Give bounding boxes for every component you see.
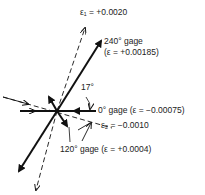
eps1-label: ε₁ = +0.0020 <box>80 7 127 17</box>
eps2-axis <box>3 97 112 141</box>
angle-label: 17° <box>81 82 94 92</box>
angle-17-indicator <box>86 97 90 109</box>
eps1-axis <box>36 28 85 190</box>
eps2-label: ε₂ = −0.0010 <box>101 120 149 130</box>
gage-120-leader <box>69 127 70 142</box>
diagram-canvas <box>0 0 205 195</box>
gage-240-value: (ε = +0.00185) <box>104 47 159 57</box>
gage-120-label: 120° gage (ε = +0.0004) <box>60 144 151 154</box>
gage-0-label: 0° gage (ε = −0.00075) <box>98 105 185 115</box>
strain-rosette-diagram: ε₁ = +0.0020 240° gage (ε = +0.00185) 17… <box>0 0 205 195</box>
gage-240-label: 240° gage <box>104 36 143 46</box>
